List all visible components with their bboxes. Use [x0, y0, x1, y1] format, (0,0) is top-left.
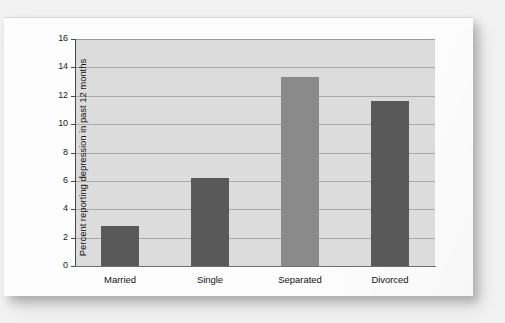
y-axis-tick-mark — [71, 209, 75, 210]
y-axis-tick-mark — [71, 153, 75, 154]
bar-separated — [281, 77, 319, 266]
y-axis-tick-label: 6 — [44, 176, 68, 185]
bar-married — [101, 226, 139, 266]
y-axis-tick-label: 8 — [44, 148, 68, 157]
y-axis-tick-mark — [71, 39, 75, 40]
x-axis-label-divorced: Divorced — [345, 274, 435, 285]
x-axis-label-separated: Separated — [255, 274, 345, 285]
x-axis-label-single: Single — [165, 274, 255, 285]
x-axis-label-married: Married — [75, 274, 165, 285]
y-axis-tick-label: 12 — [44, 91, 68, 100]
y-axis-tick-label: 10 — [44, 119, 68, 128]
y-axis-tick-mark — [71, 181, 75, 182]
bar-divorced — [371, 101, 409, 266]
y-axis-tick-label: 14 — [44, 62, 68, 71]
y-axis-tick-label: 2 — [44, 233, 68, 242]
y-axis-tick-label: 4 — [44, 204, 68, 213]
y-axis-tick-labels: 0246810121416 — [44, 0, 68, 323]
y-axis-tick-mark — [71, 266, 75, 267]
y-axis-tick-label: 16 — [44, 34, 68, 43]
gridline — [75, 67, 435, 68]
bar-chart: 0246810121416 Percent reporting depressi… — [0, 0, 505, 323]
y-axis-tick-label: 0 — [44, 261, 68, 270]
y-axis-tick-mark — [71, 67, 75, 68]
y-axis-tick-mark — [71, 124, 75, 125]
gridline — [75, 96, 435, 97]
bar-single — [191, 178, 229, 266]
y-axis-title-wrap: Percent reporting depression in past 12 … — [36, 0, 46, 323]
y-axis-title: Percent reporting depression in past 12 … — [77, 38, 88, 278]
y-axis-tick-mark — [71, 238, 75, 239]
y-axis-tick-mark — [71, 96, 75, 97]
x-axis-line — [75, 266, 436, 267]
